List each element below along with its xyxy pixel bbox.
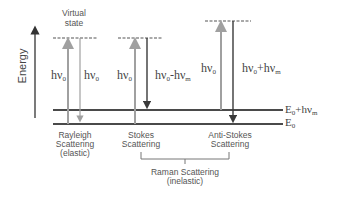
excited-level-label: E0+hνm xyxy=(285,103,318,117)
anti-stokes-label-2: Scattering xyxy=(211,139,250,149)
raman-bracket: Raman Scattering (inelastic) xyxy=(141,152,229,186)
energy-axis-label: Energy xyxy=(16,48,28,83)
virtual-state-label-1: Virtual xyxy=(62,8,86,18)
raman-label-2: (inelastic) xyxy=(167,176,204,186)
rayleigh-incident-label: hν0 xyxy=(51,68,66,83)
rayleigh-emitted-label: hν0 xyxy=(84,68,99,83)
stokes-label-2: Scattering xyxy=(122,139,161,149)
energy-axis: Energy xyxy=(16,30,35,118)
virtual-state-label-2: state xyxy=(65,18,84,28)
rayleigh-process: hν0 hν0 Rayleigh Scattering (elastic) xyxy=(51,38,99,158)
ground-level-label: E0 xyxy=(285,116,296,130)
stokes-emitted-label: hν0-hνm xyxy=(155,68,191,83)
raman-energy-diagram: Energy Virtual state E0+hνm E0 hν0 hν0 R… xyxy=(0,0,337,200)
rayleigh-label-3: (elastic) xyxy=(60,148,90,158)
anti-stokes-process: hν0 hν0+hνm Anti-Stokes Scattering xyxy=(201,21,281,149)
stokes-incident-label: hν0 xyxy=(117,68,132,83)
anti-stokes-emitted-label: hν0+hνm xyxy=(242,61,281,76)
anti-stokes-incident-label: hν0 xyxy=(201,61,216,76)
stokes-process: hν0 hν0-hνm Stokes Scattering xyxy=(117,38,191,149)
